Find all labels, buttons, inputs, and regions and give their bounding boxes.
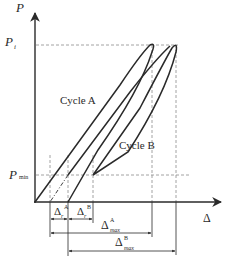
x-axis-label: Δ [203,211,211,225]
svg-text:P: P [4,34,13,49]
svg-text:r: r [61,213,64,219]
svg-text:B: B [87,204,91,210]
cycle-b-label: Cycle B [119,139,155,151]
svg-text:Δ: Δ [101,218,109,232]
delta-r-b-label: Δ r B [77,204,91,219]
p-min-label: P min [8,167,28,182]
svg-text:max: max [110,227,120,233]
delta-r-a-label: Δ r A [54,204,69,219]
svg-text:P: P [8,167,17,182]
cycle-b-extrapolation-line [50,175,68,202]
cycle-a-label: Cycle A [60,94,96,106]
p-i-label: P i [4,34,16,51]
hysteresis-diagram: P Δ P i P min Cycle A Cycle B Δ r A Δ r … [0,0,234,266]
svg-text:max: max [124,245,134,251]
svg-text:B: B [124,235,128,241]
svg-text:r: r [84,213,87,219]
cycle-a-curve [35,44,154,202]
svg-text:A: A [64,204,69,210]
y-axis-label: P [15,0,24,15]
svg-text:Δ: Δ [115,235,123,249]
svg-text:A: A [110,217,115,223]
delta-max-a-label: Δ max A [101,217,120,233]
delta-max-b-label: Δ max B [115,235,134,251]
svg-text:i: i [14,43,16,51]
cycle-b-loading-branch [68,46,170,175]
svg-text:min: min [19,174,28,180]
guide-lines [36,45,190,202]
